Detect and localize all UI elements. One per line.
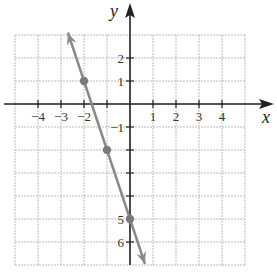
x-tick-label: 2 [173, 109, 180, 124]
x-tick-label: 4 [219, 109, 226, 124]
x-tick-label: −3 [54, 109, 68, 124]
x-tick-label: −2 [77, 109, 91, 124]
y-tick-label: −1 [110, 120, 124, 135]
line-series [67, 33, 146, 264]
data-point [103, 146, 111, 154]
y-tick-label: 1 [118, 74, 125, 89]
y-tick-label: 2 [118, 51, 125, 66]
y-tick-label: 6 [118, 235, 125, 250]
x-tick-label: −4 [31, 109, 45, 124]
x-tick-label: 1 [150, 109, 157, 124]
coordinate-plane: −4−3−2123421−156 x y [0, 0, 277, 277]
x-tick-label: 3 [196, 109, 203, 124]
data-point [126, 215, 134, 223]
y-axis-label: y [108, 1, 118, 21]
y-tick-label: 5 [118, 212, 125, 227]
x-axis-label: x [261, 107, 270, 127]
axes [4, 3, 274, 265]
data-point [80, 77, 88, 85]
